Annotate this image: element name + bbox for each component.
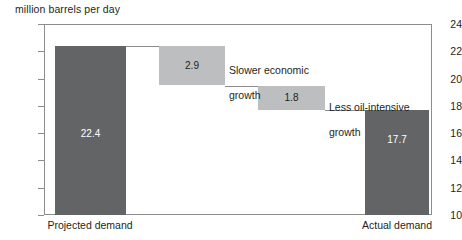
y-tick-16 (38, 133, 44, 134)
bar-value-projected-demand: 22.4 (55, 128, 126, 139)
bar-value-slower-economic-growth: 2.9 (159, 60, 225, 71)
bar-slower-economic-growth[interactable]: 2.9 (159, 46, 225, 86)
chart-screenshot: million barrels per day 24 22 20 18 16 1… (0, 0, 462, 240)
y-tick-label-12: 12 (426, 182, 462, 194)
y-tick-18 (38, 106, 44, 107)
y-tick-14 (38, 160, 44, 161)
connector-step-1 (126, 46, 159, 47)
y-tick-label-22: 22 (426, 45, 462, 57)
annotation-slower-line-1: Slower economic (229, 64, 309, 77)
y-tick-label-20: 20 (426, 73, 462, 85)
y-axis-unit-title: million barrels per day (15, 3, 120, 15)
y-tick-22 (38, 51, 44, 52)
y-tick-24 (38, 24, 44, 25)
annotation-less-oil-intensive-growth: Less oil-intensive growth (329, 88, 410, 151)
x-axis-label-actual-demand: Actual demand (362, 219, 432, 231)
bar-projected-demand[interactable]: 22.4 (55, 46, 126, 215)
annotation-lessoil-line-2: growth (329, 126, 410, 139)
y-tick-20 (38, 79, 44, 80)
x-axis-label-projected-demand: Projected demand (47, 219, 132, 231)
annotation-slower-line-2: growth (229, 89, 309, 102)
annotation-lessoil-line-1: Less oil-intensive (329, 101, 410, 114)
y-axis-line (44, 24, 45, 215)
y-tick-label-16: 16 (426, 127, 462, 139)
y-tick-label-18: 18 (426, 100, 462, 112)
annotation-slower-economic-growth: Slower economic growth (229, 51, 309, 114)
y-tick-10 (38, 215, 44, 216)
y-tick-label-14: 14 (426, 154, 462, 166)
y-tick-label-24: 24 (426, 18, 462, 30)
y-tick-12 (38, 188, 44, 189)
